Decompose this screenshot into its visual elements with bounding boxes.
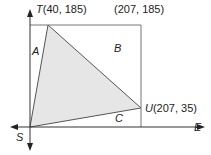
corner-point-label: (207, 185) xyxy=(114,3,164,15)
axis-arrow-left-icon xyxy=(10,124,18,130)
axis-e-label: E xyxy=(194,121,202,133)
point-s-label: S xyxy=(16,131,24,143)
point-u-label: U(207, 35) xyxy=(145,102,197,114)
axis-arrow-up-icon xyxy=(27,9,33,17)
region-c-label: C xyxy=(115,112,123,124)
shaded-triangle-stu xyxy=(30,25,141,127)
coordinate-diagram: T(40, 185) (207, 185) A B C U(207, 35) S… xyxy=(0,0,211,155)
point-t-label: T(40, 185) xyxy=(36,3,87,15)
axis-arrow-down-icon xyxy=(27,143,33,151)
region-b-label: B xyxy=(114,42,121,54)
region-a-label: A xyxy=(31,45,39,57)
